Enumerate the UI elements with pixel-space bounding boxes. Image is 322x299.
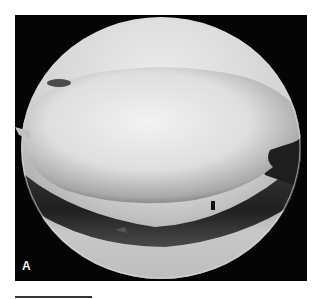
scale-bar	[15, 296, 92, 298]
scope-circle	[15, 15, 307, 281]
arthroscopy-image-frame: A	[15, 15, 307, 281]
arthroscopy-view	[15, 15, 307, 281]
panel-label: A	[22, 259, 31, 273]
